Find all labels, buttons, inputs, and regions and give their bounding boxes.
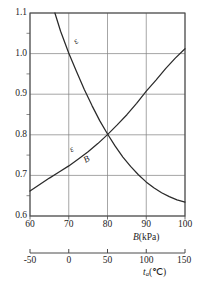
secondary-x-tick-label-5: 150 [170,256,198,266]
x-tick-label-1: 60 [16,220,44,230]
x-tick-label-3: 80 [94,220,122,230]
chart-figure [0,0,199,282]
secondary-x-axis-unit: (℃) [149,267,166,277]
y-tick-label-4: 0.8 [0,130,27,140]
secondary-x-tick-label-4: 100 [132,256,160,266]
secondary-x-tick-label-1: -50 [14,256,46,266]
y-tick-label-2: 1.0 [0,49,27,59]
y-tick-label-3: 0.9 [0,89,27,99]
secondary-x-tick-label-2: 0 [55,256,83,266]
secondary-axis-ticks [30,249,185,253]
y-tick-label-1: 1.1 [0,8,27,18]
x-tick-label-5: 100 [171,220,199,230]
x-tick-label-4: 90 [132,220,160,230]
y-tick-label-5: 0.7 [0,170,27,180]
secondary-x-tick-label-3: 50 [94,256,122,266]
primary-x-axis-title: B(kPa) [133,233,159,243]
x-tick-label-2: 70 [55,220,83,230]
secondary-x-axis-title: ta(℃) [143,268,166,278]
primary-x-axis-unit: (kPa) [139,232,160,242]
